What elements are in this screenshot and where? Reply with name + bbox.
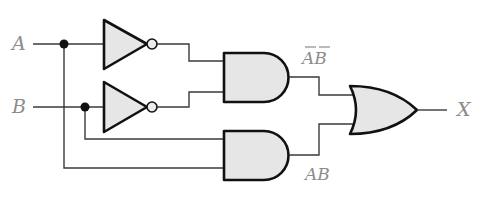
term-label-and1: AB bbox=[300, 47, 330, 68]
wire-and1-to-or bbox=[289, 77, 355, 95]
and-gate-2 bbox=[224, 131, 289, 180]
term-and1-letter-a: A bbox=[300, 48, 314, 68]
junction-dot-b bbox=[81, 103, 90, 112]
svg-text:AB: AB bbox=[300, 48, 327, 68]
not-gate-b bbox=[104, 82, 157, 132]
term-and1-letter-b: B bbox=[313, 48, 327, 68]
wire-and2-to-or bbox=[289, 124, 355, 155]
output-label-x: X bbox=[455, 98, 472, 120]
logic-circuit-diagram: A B X AB bbox=[0, 0, 479, 201]
term-and2-letter-b: B bbox=[316, 164, 330, 184]
not-gate-a bbox=[104, 20, 157, 69]
or-gate bbox=[350, 86, 417, 134]
wire-not-a-to-and1 bbox=[157, 44, 224, 61]
input-label-a: A bbox=[10, 32, 26, 54]
input-label-b: B bbox=[11, 95, 26, 117]
junction-dot-a bbox=[60, 40, 69, 49]
term-and2-letter-a: A bbox=[303, 164, 317, 184]
and-gate-1 bbox=[224, 53, 289, 102]
term-label-and2: AB bbox=[303, 164, 330, 184]
wire-not-b-to-and1 bbox=[157, 92, 224, 107]
svg-text:AB: AB bbox=[303, 164, 330, 184]
